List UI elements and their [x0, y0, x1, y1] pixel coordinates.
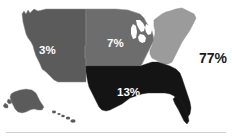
region-label-midwest: 7%: [107, 38, 124, 50]
region-label-northeast: 77%: [199, 51, 227, 65]
footer-divider: [6, 132, 226, 133]
region-label-south: 13%: [117, 87, 140, 99]
us-regional-choropleth-figure: 3% 7% 13% 77%: [0, 0, 232, 139]
region-label-west: 3%: [39, 45, 56, 57]
us-map-svg: [0, 0, 232, 139]
